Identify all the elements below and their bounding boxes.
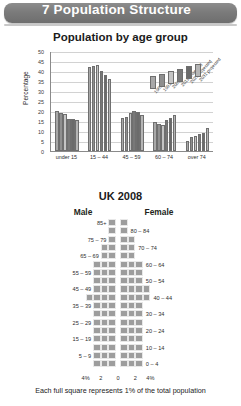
pyramid-square-female xyxy=(135,319,143,326)
pyramid-square-female xyxy=(128,285,136,292)
pyramid-age-label: 65 – 69 xyxy=(39,253,99,259)
bar xyxy=(121,118,124,151)
pyramid-square-female xyxy=(120,269,128,276)
pyramid-square-female xyxy=(120,277,128,284)
pyramid-square-male xyxy=(108,261,116,268)
pyramid-age-label: 5 – 9 xyxy=(31,353,91,359)
pyramid-age-label: 10 – 14 xyxy=(146,345,206,351)
bar-chart-ytick: 30 xyxy=(22,89,44,95)
pyramid-square-female xyxy=(128,360,136,367)
pyramid-row: 65 – 69 xyxy=(0,252,241,260)
pyramid-square-male xyxy=(108,360,116,367)
bar xyxy=(59,113,62,151)
pyramid-square-female xyxy=(120,252,128,259)
pyramid-square-female xyxy=(120,327,128,334)
pyramid-square-female xyxy=(143,294,151,301)
pyramid-square-female xyxy=(135,360,143,367)
pyramid-square-male xyxy=(93,277,101,284)
pyramid-square-female xyxy=(128,319,136,326)
pyramid-row: 45 – 49 xyxy=(0,285,241,293)
bar xyxy=(125,117,128,151)
bar-chart-xtick: 60 – 74 xyxy=(148,154,181,160)
pyramid-square-female xyxy=(120,294,128,301)
bar-chart-ytick: 35 xyxy=(22,79,44,85)
bar-chart-ytick: 20 xyxy=(22,109,44,115)
pyramid-square-male xyxy=(108,352,116,359)
pyramid-row: 10 – 14 xyxy=(0,344,241,352)
bar-chart: Percentage 05101520253035404550 under 15… xyxy=(0,47,241,172)
pyramid-row: 75 – 79 xyxy=(0,236,241,244)
pyramid-age-label: 60 – 64 xyxy=(146,262,206,268)
pyramid-row: 0 – 4 xyxy=(0,360,241,368)
pyramid-square-female xyxy=(120,261,128,268)
pyramid-square-male xyxy=(86,294,94,301)
pyramid-square-female xyxy=(128,277,136,284)
bar-chart-legend: 1981199120012011 projected2021 projected… xyxy=(150,49,238,97)
bar xyxy=(136,112,139,151)
pyramid-square-female xyxy=(120,335,128,342)
bar-chart-xtick: over 74 xyxy=(180,154,213,160)
pyramid-age-label: 80 – 84 xyxy=(131,228,191,234)
pyramid-square-female xyxy=(128,352,136,359)
pyramid-square-male xyxy=(101,310,109,317)
pyramid-age-label: 70 – 74 xyxy=(138,245,198,251)
pyramid-square-male xyxy=(101,269,109,276)
pyramid-square-female xyxy=(120,219,128,226)
bar xyxy=(173,115,176,151)
pyramid-square-female xyxy=(128,344,136,351)
pyramid-square-female xyxy=(128,269,136,276)
pyramid-row: 5 – 9 xyxy=(0,352,241,360)
pyramid-square-male xyxy=(93,319,101,326)
pyramid-square-female xyxy=(135,344,143,351)
pyramid-square-male xyxy=(93,302,101,309)
pyramid-title: UK 2008 xyxy=(0,190,241,202)
pyramid-square-male xyxy=(101,244,109,251)
pyramid-axis: 4%2024% xyxy=(0,375,241,385)
bar-chart-xtick: 45 – 59 xyxy=(115,154,148,160)
pyramid-square-male xyxy=(108,252,116,259)
bar-chart-ytick: 45 xyxy=(22,59,44,65)
pyramid-square-female xyxy=(135,261,143,268)
pyramid-female-header: Female xyxy=(131,207,187,217)
bar xyxy=(194,136,197,151)
pyramid-square-male xyxy=(93,327,101,334)
pyramid-square-female xyxy=(135,285,143,292)
pyramid-square-female xyxy=(135,335,143,342)
pyramid-square-female xyxy=(128,244,136,251)
pyramid-square-female xyxy=(128,310,136,317)
pyramid-square-male xyxy=(108,319,116,326)
bar xyxy=(153,122,156,151)
pyramid-row: 50 – 54 xyxy=(0,277,241,285)
population-pyramid: 85+80 – 8475 – 7970 – 7465 – 6960 – 6455… xyxy=(0,219,241,371)
pyramid-square-male xyxy=(108,302,116,309)
bar xyxy=(202,133,205,151)
pyramid-square-male xyxy=(101,327,109,334)
pyramid-square-male xyxy=(101,352,109,359)
bar xyxy=(104,75,107,151)
pyramid-square-female xyxy=(120,302,128,309)
pyramid-square-female xyxy=(135,310,143,317)
legend-item: 1981 xyxy=(150,76,156,89)
bar-chart-ytick: 40 xyxy=(22,69,44,75)
banner-underline xyxy=(4,24,237,26)
bar-chart-ytick: 25 xyxy=(22,99,44,105)
bar xyxy=(198,134,201,151)
pyramid-caption: Each full square represents 1% of the to… xyxy=(0,386,241,395)
pyramid-square-female xyxy=(135,327,143,334)
pyramid-xtick: 4% xyxy=(140,375,160,381)
pyramid-row: 70 – 74 xyxy=(0,244,241,252)
bar-group xyxy=(84,52,117,151)
bar xyxy=(92,66,95,151)
bar-chart-xtick: 15 – 44 xyxy=(83,154,116,160)
pyramid-age-label: 50 – 54 xyxy=(146,278,206,284)
pyramid-square-female xyxy=(135,269,143,276)
pyramid-age-label: 0 – 4 xyxy=(146,361,206,367)
pyramid-square-male xyxy=(101,294,109,301)
pyramid-age-label: 40 – 44 xyxy=(153,295,213,301)
pyramid-square-male xyxy=(101,360,109,367)
pyramid-square-female xyxy=(128,302,136,309)
pyramid-square-male xyxy=(101,302,109,309)
pyramid-square-male xyxy=(101,344,109,351)
pyramid-square-female xyxy=(135,294,143,301)
pyramid-row: 35 – 39 xyxy=(0,302,241,310)
